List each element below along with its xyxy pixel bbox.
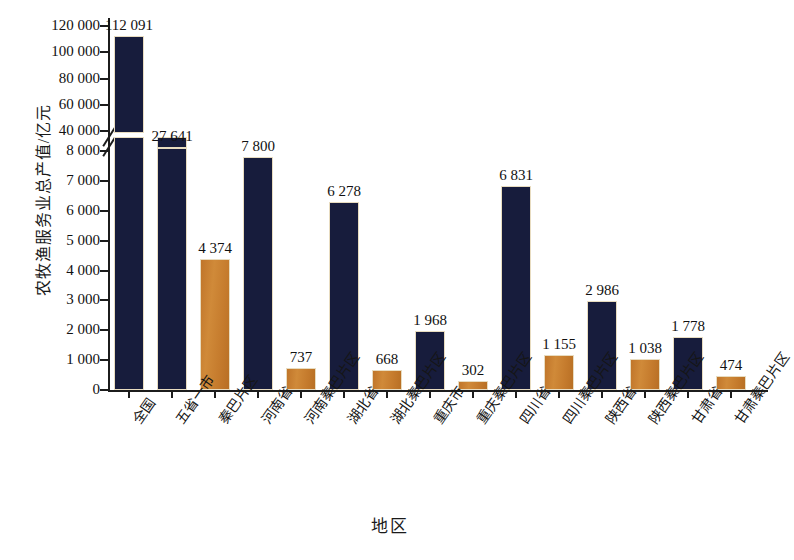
y-tick-label: 6 000 — [8, 203, 100, 218]
x-tick-mark — [687, 390, 689, 398]
x-axis-title: 地区 — [0, 512, 779, 537]
x-tick-mark — [472, 390, 474, 398]
y-tick-label: 1 000 — [8, 352, 100, 367]
bar — [630, 359, 660, 390]
bar — [372, 370, 402, 390]
x-tick-mark — [343, 390, 345, 398]
bar — [544, 355, 574, 390]
x-tick-mark — [300, 390, 302, 398]
bar — [114, 137, 144, 390]
bar-value-label: 6 831 — [471, 167, 561, 184]
y-tick-label: 7 000 — [8, 173, 100, 188]
bar-value-label: 7 800 — [213, 138, 303, 155]
bar-value-label: 1 778 — [643, 318, 733, 335]
x-tick-mark — [171, 390, 173, 398]
y-tick-mark — [100, 329, 108, 331]
bar — [716, 376, 746, 390]
bar-upper-segment — [157, 147, 187, 149]
bar — [286, 368, 316, 390]
bar-value-label: 27 641 — [127, 128, 217, 145]
y-tick-mark — [100, 130, 108, 132]
y-tick-mark — [100, 180, 108, 182]
bar — [157, 137, 187, 390]
bar — [200, 259, 230, 390]
y-tick-label: 3 000 — [8, 292, 100, 307]
bar-value-label: 112 091 — [84, 17, 174, 34]
x-axis-category-label: 全国 — [127, 393, 159, 427]
y-axis-line — [108, 18, 110, 392]
x-tick-mark — [386, 390, 388, 398]
y-tick-label: 4 000 — [8, 263, 100, 278]
bar-upper-segment — [114, 36, 144, 133]
y-tick-mark — [100, 51, 108, 53]
y-tick-label: 5 000 — [8, 233, 100, 248]
bar-value-label: 1 968 — [385, 312, 475, 329]
y-tick-label: 40 000 — [8, 123, 100, 138]
bar-value-label: 6 278 — [299, 183, 389, 200]
y-tick-label: 8 000 — [8, 143, 100, 158]
x-tick-mark — [214, 390, 216, 398]
x-tick-mark — [601, 390, 603, 398]
x-tick-mark — [128, 390, 130, 398]
y-tick-label: 60 000 — [8, 97, 100, 112]
y-tick-mark — [100, 389, 108, 391]
y-tick-mark — [100, 240, 108, 242]
x-tick-mark — [730, 390, 732, 398]
bar-value-label: 2 986 — [557, 282, 647, 299]
x-tick-mark — [429, 390, 431, 398]
plot-area: 01 0002 0003 0004 0005 0006 0007 0008 00… — [108, 18, 768, 392]
y-tick-label: 0 — [8, 382, 100, 397]
y-tick-mark — [100, 104, 108, 106]
x-tick-mark — [644, 390, 646, 398]
x-tick-mark — [515, 390, 517, 398]
y-tick-label: 2 000 — [8, 322, 100, 337]
y-tick-label: 100 000 — [8, 44, 100, 59]
y-tick-mark — [100, 299, 108, 301]
x-tick-mark — [257, 390, 259, 398]
x-tick-mark — [558, 390, 560, 398]
y-tick-mark — [100, 359, 108, 361]
y-tick-mark — [100, 270, 108, 272]
y-tick-label: 80 000 — [8, 71, 100, 86]
y-tick-mark — [100, 210, 108, 212]
y-tick-mark — [100, 78, 108, 80]
